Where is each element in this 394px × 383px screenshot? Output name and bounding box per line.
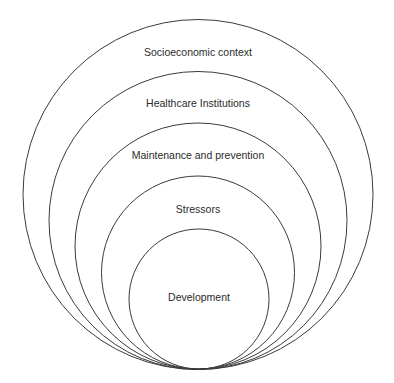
layer-development: Development [129, 229, 269, 369]
label-healthcare-institutions: Healthcare Institutions [146, 97, 250, 109]
ring-healthcare-institutions [49, 72, 347, 370]
layer-healthcare-institutions: Healthcare Institutions [49, 72, 347, 370]
label-maintenance-and-prevention: Maintenance and prevention [132, 149, 265, 161]
layer-maintenance-and-prevention: Maintenance and prevention [75, 123, 321, 369]
layer-stressors: Stressors [102, 176, 295, 369]
label-development: Development [168, 291, 230, 303]
nested-circles-diagram: Socioeconomic context Healthcare Institu… [0, 0, 394, 383]
label-stressors: Stressors [176, 203, 220, 215]
label-socioeconomic-context: Socioeconomic context [144, 46, 252, 58]
